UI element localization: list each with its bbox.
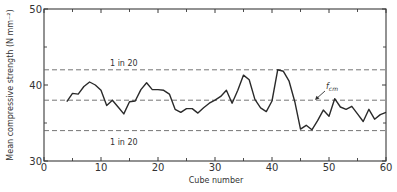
x-tick-label: 30: [209, 162, 222, 173]
y-tick-label: 50: [29, 4, 42, 15]
chart: 0102030405060304050 1 in 20 1 in 20 fcm …: [0, 0, 397, 192]
x-tick-label: 40: [266, 162, 279, 173]
x-tick-label: 20: [152, 162, 165, 173]
fcm-annotation: fcm: [315, 82, 338, 100]
upper-limit-label: 1 in 20: [110, 59, 138, 68]
y-tick-label: 40: [29, 80, 42, 91]
y-tick-label: 30: [29, 156, 42, 167]
series-line: [67, 70, 386, 130]
x-tick-label: 50: [323, 162, 336, 173]
lower-limit-label: 1 in 20: [110, 138, 138, 147]
x-axis-title: Cube number: [189, 176, 244, 185]
y-axis-title: Mean compressive strength (N mm⁻²): [6, 9, 15, 160]
x-tick-label: 60: [380, 162, 393, 173]
fcm-label: fcm: [326, 82, 338, 92]
x-tick-label: 10: [95, 162, 108, 173]
data-series: [67, 70, 386, 130]
